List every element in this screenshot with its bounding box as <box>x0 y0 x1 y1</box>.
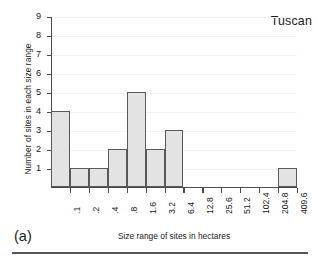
x-axis-tick-label: .8 <box>130 207 139 214</box>
y-axis-tick: 9 <box>47 17 52 18</box>
x-axis-tick <box>202 188 203 193</box>
x-axis-tick-label: .4 <box>111 207 120 214</box>
x-axis-tick-label: 3.2 <box>168 202 177 214</box>
bar <box>127 92 146 187</box>
y-axis-tick-label: 9 <box>21 11 41 22</box>
x-axis-tick <box>297 188 298 193</box>
x-axis-tick-label: 204.8 <box>281 192 290 214</box>
gridline <box>51 93 297 94</box>
bar <box>51 111 70 187</box>
y-axis-tick-label: 5 <box>21 87 41 98</box>
bar <box>89 168 108 187</box>
x-axis-tick <box>108 188 109 193</box>
bar <box>146 149 165 187</box>
gridline <box>51 74 297 75</box>
y-axis-tick: 6 <box>47 74 52 75</box>
panel-label: (a) <box>14 228 32 244</box>
x-axis-tick-label: .2 <box>92 207 101 214</box>
x-axis-tick <box>89 188 90 193</box>
plot-area: 123456789 .1.2.4.81.63.26.412.825.651.21… <box>51 17 297 188</box>
y-axis-tick: 7 <box>47 55 52 56</box>
bar <box>108 149 127 187</box>
gridline <box>51 112 297 113</box>
y-axis-tick-label: 6 <box>21 68 41 79</box>
x-axis-tick <box>165 188 166 193</box>
horizontal-divider <box>12 252 308 254</box>
y-axis-tick: 8 <box>47 36 52 37</box>
x-axis-tick-label: 51.2 <box>243 197 252 214</box>
y-axis-tick: 5 <box>47 93 52 94</box>
x-axis-tick <box>127 188 128 193</box>
y-axis-tick-label: 1 <box>21 163 41 174</box>
y-axis-tick-label: 2 <box>21 144 41 155</box>
gridline <box>51 17 297 18</box>
gridline <box>51 55 297 56</box>
x-axis-tick-label: 12.8 <box>206 197 215 214</box>
histogram-figure: Number of sites in each size range Tusca… <box>0 0 318 262</box>
x-axis-tick-label: 409.6 <box>300 192 309 214</box>
y-axis-tick-label: 8 <box>21 30 41 41</box>
bar <box>278 168 297 187</box>
x-axis-title: Size range of sites in hectares <box>51 231 297 241</box>
x-axis-tick-label: 102.4 <box>262 192 271 214</box>
bar <box>70 168 89 187</box>
x-axis-tick-label: 6.4 <box>187 202 196 214</box>
y-axis-tick-label: 4 <box>21 106 41 117</box>
y-axis-tick-label: 7 <box>21 49 41 60</box>
gridline <box>51 36 297 37</box>
x-axis-tick <box>183 188 184 193</box>
bar <box>165 130 184 187</box>
x-axis-tick-label: .1 <box>73 207 82 214</box>
x-axis-tick <box>221 188 222 193</box>
x-axis-tick-label: 1.6 <box>149 202 158 214</box>
x-axis-tick-label: 25.6 <box>225 197 234 214</box>
y-axis-tick-label: 3 <box>21 125 41 136</box>
x-axis-tick <box>70 188 71 193</box>
x-axis-tick <box>146 188 147 193</box>
x-axis-tick <box>240 188 241 193</box>
